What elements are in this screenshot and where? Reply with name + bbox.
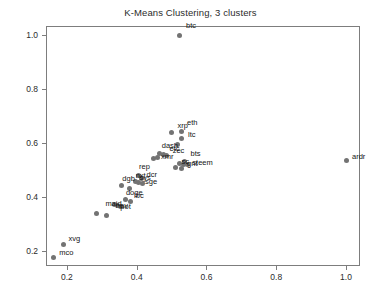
x-tick-mark (137, 266, 138, 270)
y-tick-label: 1.0 (8, 30, 38, 40)
x-tick-mark (346, 266, 347, 270)
x-tick-mark (276, 266, 277, 270)
x-tick-label: 0.8 (270, 272, 282, 282)
y-tick-label: 0.8 (8, 84, 38, 94)
y-tick-label: 0.6 (8, 138, 38, 148)
x-tick-label: 1.0 (340, 272, 352, 282)
chart-title: K-Means Clustering, 3 clusters (0, 7, 381, 18)
x-tick-mark (67, 266, 68, 270)
y-tick-label: 0.2 (8, 246, 38, 256)
y-tick-label: 0.4 (8, 192, 38, 202)
x-tick-label: 0.4 (131, 272, 143, 282)
x-tick-label: 0.2 (61, 272, 73, 282)
plot-area-frame (46, 26, 360, 266)
x-tick-label: 0.6 (201, 272, 213, 282)
x-tick-mark (206, 266, 207, 270)
scatter-chart-figure: K-Means Clustering, 3 clusters 0.20.40.6… (0, 0, 381, 302)
